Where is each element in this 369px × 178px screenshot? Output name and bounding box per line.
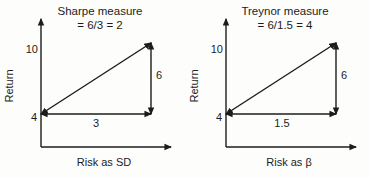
y-axis-label: Return: [188, 69, 200, 102]
rise-value-label: 6: [156, 69, 162, 81]
figure-svg: Sharpe measure = 6/3 = 2 10 4 3 6 Return…: [0, 0, 369, 178]
figure-container: Sharpe measure = 6/3 = 2 10 4 3 6 Return…: [0, 0, 369, 178]
sharpe-chart: Sharpe measure = 6/3 = 2 10 4 3 6 Return…: [3, 5, 171, 168]
chart-title-line2: = 6/3 = 2: [77, 19, 122, 31]
y-tick-top: 10: [211, 43, 223, 55]
y-axis-label: Return: [3, 69, 15, 102]
x-axis-label: Risk as β: [266, 156, 311, 168]
run-value-label: 3: [93, 117, 99, 129]
chart-title-line2: = 6/1.5 = 4: [258, 19, 314, 31]
chart-title-line1: Sharpe measure: [57, 5, 142, 17]
run-value-label: 1.5: [274, 117, 289, 129]
x-axis-label: Risk as SD: [77, 156, 131, 168]
chart-title-line1: Treynor measure: [241, 5, 328, 17]
treynor-chart: Treynor measure = 6/1.5 = 4 10 4 1.5 6 R…: [188, 5, 356, 168]
y-tick-bottom: 4: [216, 111, 222, 123]
rise-value-label: 6: [341, 69, 347, 81]
slope-arrow-line: [226, 43, 336, 114]
y-tick-top: 10: [26, 43, 38, 55]
slope-arrow-line: [41, 43, 151, 114]
y-tick-bottom: 4: [31, 111, 37, 123]
